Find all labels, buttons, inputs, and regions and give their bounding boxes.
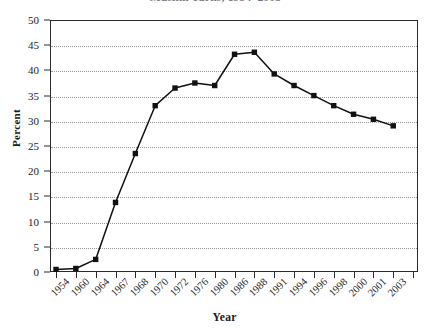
gridline: [51, 71, 417, 72]
gridline: [51, 97, 417, 98]
y-tick-label: 15: [28, 190, 39, 202]
gridline: [51, 122, 417, 123]
y-tick-label: 50: [28, 14, 39, 26]
y-axis: 05101520253035404550: [0, 20, 46, 272]
gridline: [51, 172, 417, 173]
y-tick-label: 0: [34, 266, 40, 278]
y-tick-label: 10: [28, 216, 39, 228]
y-tick-label: 45: [28, 39, 39, 51]
y-tick-mark: [44, 95, 50, 96]
chart-title: Muslim Turks, 1954–2003: [0, 0, 431, 7]
y-tick-mark: [44, 70, 50, 71]
y-tick-label: 5: [34, 241, 40, 253]
y-axis-title: Percent: [10, 83, 22, 173]
y-tick-mark: [44, 221, 50, 222]
y-tick-mark: [44, 120, 50, 121]
y-tick-label: 20: [28, 165, 39, 177]
y-tick-label: 35: [28, 90, 39, 102]
y-tick-mark: [44, 146, 50, 147]
gridline: [51, 147, 417, 148]
gridline: [51, 248, 417, 249]
y-tick-mark: [44, 171, 50, 172]
y-tick-label: 30: [28, 115, 39, 127]
y-tick-label: 40: [28, 64, 39, 76]
x-axis-title: Year: [0, 311, 431, 323]
chart-figure: Muslim Turks, 1954–2003 0510152025303540…: [0, 0, 431, 330]
gridline: [51, 197, 417, 198]
y-tick-mark: [44, 20, 50, 21]
x-axis: 1954196019641967196819701972197619801986…: [50, 278, 418, 312]
gridline: [51, 223, 417, 224]
y-tick-label: 25: [28, 140, 39, 152]
gridline: [51, 46, 417, 47]
y-tick-mark: [44, 196, 50, 197]
y-tick-mark: [44, 246, 50, 247]
plot-area: [50, 20, 418, 272]
y-tick-mark: [44, 45, 50, 46]
